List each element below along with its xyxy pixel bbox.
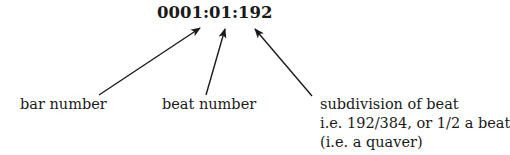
subdivision-line-1: subdivision of beat: [320, 95, 510, 114]
arrow-beat-number: [206, 29, 225, 95]
subdivision-line-3: (i.e. a quaver): [320, 133, 510, 152]
arrow-subdivision: [255, 29, 312, 96]
arrow-bar-number: [99, 28, 200, 95]
beat-number-label: beat number: [162, 95, 256, 114]
subdivision-label: subdivision of beat i.e. 192/384, or 1/2…: [320, 95, 510, 152]
subdivision-line-2: i.e. 192/384, or 1/2 a beat: [320, 114, 510, 133]
bar-number-label: bar number: [20, 95, 107, 114]
